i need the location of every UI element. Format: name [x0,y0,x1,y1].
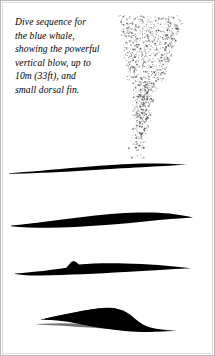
spray-dot [155,17,156,18]
spray-dot [132,49,133,50]
spray-dot [133,19,134,20]
spray-dot [140,133,142,135]
spray-dot [148,75,149,76]
spray-dot [147,98,148,99]
spray-dot [131,141,132,142]
spray-dot [128,71,129,72]
spray-dot [143,142,144,143]
spray-dot [132,22,133,23]
spray-dot [158,69,159,70]
spray-dot [136,118,137,119]
spray-dot [129,31,131,33]
spray-dot [131,76,132,77]
spray-dot [127,79,128,80]
spray-dot [157,88,158,89]
spray-dot [145,114,147,116]
spray-dot [140,32,141,33]
spray-dot [139,30,140,31]
spray-dot [148,40,150,42]
spray-dot [177,31,178,32]
spray-dot [160,31,161,32]
spray-dot [137,74,138,75]
spray-dot [136,122,137,123]
spray-dot [168,46,170,48]
spray-dot [159,77,160,78]
spray-dot [146,36,147,37]
spray-dot [137,81,138,82]
spray-dot [169,30,170,31]
spray-dot [146,30,147,31]
spray-dot [158,79,159,80]
spray-dot [127,55,128,56]
spray-dot [128,35,129,36]
spray-dot [150,21,151,22]
spray-dot [143,59,144,60]
spray-dot [164,27,165,28]
spray-dot [165,61,167,63]
spray-dot [140,90,141,91]
spray-dot [137,51,138,52]
spray-dot [164,50,165,51]
spray-dot [143,58,144,59]
spray-dot [153,71,154,72]
spray-dot [140,16,141,17]
spray-dot [138,109,139,110]
spray-dot [162,64,164,66]
spray-dot [128,147,130,149]
spray-dot [161,44,162,45]
spray-dot [140,142,141,143]
spray-dot [168,53,169,54]
spray-dot [127,49,128,50]
spray-dot [147,57,148,58]
spray-dot [177,15,178,16]
spray-dot [131,77,132,78]
spray-dot [132,35,133,36]
spray-dot [153,22,154,23]
spray-dot [144,26,145,27]
spray-dot [168,61,169,62]
spray-dot [146,19,147,20]
spray-dot [153,84,155,86]
spray-dot [143,110,145,112]
spray-dot [148,91,149,92]
spray-dot [167,39,168,40]
spray-dot [142,106,143,107]
spray-dot [136,56,137,57]
spray-dot [174,42,175,43]
spray-dot [138,136,139,137]
spray-dot [126,47,128,49]
spray-dot [178,32,179,33]
spray-dot [157,41,158,42]
spray-dot [149,103,151,105]
spray-dot [162,37,163,38]
spray-dot [137,156,138,157]
spray-dot [142,112,144,114]
spray-dot [145,141,146,142]
spray-dot [164,33,165,34]
spray-dot [158,36,159,37]
figure-page: Dive sequence for the blue whale, showin… [0,0,215,356]
spray-dot [136,106,137,107]
spray-dot [140,155,141,156]
spray-dot [147,22,148,23]
spray-dot [156,73,157,74]
spray-dot [136,111,137,112]
spray-dot [151,89,152,90]
spray-dot [136,76,137,77]
spray-dot [135,61,137,63]
spray-dot [155,80,157,82]
spray-dot [167,22,168,23]
spray-dot [134,57,135,58]
spray-dot [147,91,148,92]
spray-dot [142,139,143,140]
spray-dot [130,48,131,49]
spray-dot [167,53,168,54]
spray-dot [142,121,143,122]
spray-dot [139,66,141,68]
spray-dot [144,98,146,100]
spray-dot [137,115,138,116]
spray-dot [141,124,142,125]
spray-dot [140,136,141,137]
spray-dot [142,126,143,127]
spray-dot [138,145,139,146]
